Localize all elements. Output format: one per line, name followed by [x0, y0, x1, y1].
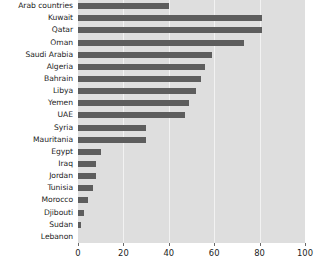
bar — [78, 64, 205, 70]
gridline — [260, 0, 261, 243]
category-label: Arab countries — [0, 2, 73, 10]
category-label: Iraq — [0, 160, 73, 168]
category-label: Oman — [0, 39, 73, 47]
bar — [78, 52, 212, 58]
tick-mark — [169, 243, 170, 246]
category-label: Djibouti — [0, 209, 73, 217]
bar — [78, 100, 189, 106]
gridline — [169, 0, 170, 243]
bar — [78, 88, 196, 94]
x-tick-label: 0 — [60, 248, 96, 258]
category-label: UAE — [0, 111, 73, 119]
tick-mark — [260, 243, 261, 246]
bar — [78, 161, 96, 167]
bar — [78, 125, 146, 131]
category-label: Kuwait — [0, 14, 73, 22]
bar — [78, 137, 146, 143]
x-tick-label: 60 — [196, 248, 232, 258]
gridline — [214, 0, 215, 243]
bar — [78, 15, 262, 21]
category-label: Algeria — [0, 63, 73, 71]
x-tick-label: 80 — [242, 248, 278, 258]
bar — [78, 197, 88, 203]
bar — [78, 173, 96, 179]
bar — [78, 27, 262, 33]
bar — [78, 112, 185, 118]
plot-area — [78, 0, 305, 243]
horizontal-bar-chart: Arab countriesKuwaitQatarOmanSaudi Arabi… — [0, 0, 317, 275]
category-label: Libya — [0, 87, 73, 95]
tick-mark — [78, 243, 79, 246]
tick-mark — [305, 243, 306, 246]
tick-mark — [214, 243, 215, 246]
bar — [78, 3, 169, 9]
bar — [78, 210, 84, 216]
category-label: Morocco — [0, 196, 73, 204]
x-axis: 020406080100 — [0, 243, 317, 275]
bar — [78, 149, 101, 155]
bar — [78, 185, 93, 191]
bar — [78, 222, 81, 228]
category-label: Saudi Arabia — [0, 51, 73, 59]
category-label: Qatar — [0, 26, 73, 34]
category-label: Jordan — [0, 172, 73, 180]
x-tick-label: 40 — [151, 248, 187, 258]
category-label: Syria — [0, 124, 73, 132]
category-label: Yemen — [0, 99, 73, 107]
category-label: Sudan — [0, 221, 73, 229]
bar — [78, 40, 244, 46]
tick-mark — [123, 243, 124, 246]
category-label: Bahrain — [0, 75, 73, 83]
category-axis-labels: Arab countriesKuwaitQatarOmanSaudi Arabi… — [0, 0, 76, 243]
category-label: Egypt — [0, 148, 73, 156]
category-label: Lebanon — [0, 233, 73, 241]
bar — [78, 76, 201, 82]
category-label: Mauritania — [0, 136, 73, 144]
x-tick-label: 100 — [287, 248, 317, 258]
category-label: Tunisia — [0, 184, 73, 192]
x-tick-label: 20 — [105, 248, 141, 258]
gridline — [123, 0, 124, 243]
